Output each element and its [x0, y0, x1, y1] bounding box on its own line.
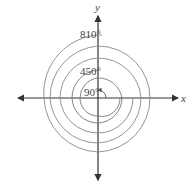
label-810: 810° [80, 28, 101, 40]
label-90: 90° [84, 86, 99, 98]
angle-diagram: y x 810° 450° 90° [0, 0, 195, 188]
x-axis-label: x [180, 92, 186, 104]
label-450: 450° [80, 65, 101, 77]
y-axis-label: y [94, 1, 100, 13]
